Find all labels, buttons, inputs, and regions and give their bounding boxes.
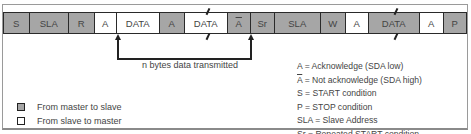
field-label: Sr: [258, 18, 268, 29]
field-label: P: [452, 18, 458, 29]
definition-item: SLA = Slave Address: [297, 114, 422, 128]
definition-text: = Slave Address: [313, 115, 378, 125]
field-label: DATA: [126, 18, 150, 29]
field-label: SLA: [288, 18, 306, 29]
field-a: A: [94, 12, 118, 34]
field-label: A: [169, 18, 175, 29]
field-label: DATA: [382, 18, 406, 29]
definition-symbol: SLA: [297, 115, 313, 125]
definition-item: S = START condition: [297, 87, 422, 101]
definition-item: A = Acknowledge (SDA low): [297, 60, 422, 74]
definition-text: = STOP condition: [303, 102, 373, 112]
arrow-up-icon: [115, 34, 121, 40]
field-a-nack: A: [227, 12, 252, 34]
definitions-list: A = Acknowledge (SDA low)A = Not acknowl…: [297, 60, 422, 134]
definition-item: P = STOP condition: [297, 101, 422, 115]
field-label: DATA: [194, 18, 218, 29]
field-label: S: [13, 18, 19, 29]
field-s: S: [3, 12, 31, 34]
field-p: P: [443, 12, 468, 34]
field-data: DATA: [184, 12, 229, 34]
field-label: SLA: [40, 18, 58, 29]
field-a: A: [419, 12, 445, 34]
field-sla: SLA: [274, 12, 322, 34]
definition-text: = Repeated START condition: [306, 129, 419, 134]
field-sr: Sr: [250, 12, 276, 34]
field-label: A: [102, 18, 108, 29]
definition-item: Sr = Repeated START condition: [297, 128, 422, 134]
field-data: DATA: [368, 12, 421, 34]
definition-text: = START condition: [303, 88, 377, 98]
field-a: A: [345, 12, 370, 34]
legend-label-master: From master to slave: [37, 102, 122, 112]
bracket-caption: n bytes data transmitted: [142, 60, 238, 70]
definition-text: = Not acknowledge (SDA high): [302, 75, 422, 85]
legend-swatch-master: [17, 103, 25, 111]
legend-label-slave: From slave to master: [37, 116, 122, 126]
field-label: R: [78, 18, 85, 29]
definition-text: = Acknowledge (SDA low): [302, 61, 403, 71]
field-data: DATA: [116, 12, 161, 34]
field-sla: SLA: [29, 12, 70, 34]
field-w: W: [320, 12, 347, 34]
field-r: R: [68, 12, 96, 34]
field-label: W: [328, 18, 337, 29]
definition-item: A = Not acknowledge (SDA high): [297, 74, 422, 88]
field-label: A: [428, 18, 434, 29]
field-a: A: [159, 12, 186, 34]
arrow-up-icon: [248, 34, 254, 40]
field-label: A: [236, 18, 242, 29]
definition-symbol: Sr: [297, 129, 306, 134]
legend-swatch-slave: [17, 117, 25, 125]
field-label: A: [354, 18, 360, 29]
